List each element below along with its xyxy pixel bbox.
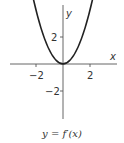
y-axis-label: y xyxy=(65,8,73,19)
graph: x y −2 2 2 −2 xyxy=(0,0,124,143)
graph-caption: y = f′(x) xyxy=(0,128,124,139)
x-tick-label-neg2: −2 xyxy=(29,70,44,81)
y-tick-label-2: 2 xyxy=(51,32,57,43)
x-axis-label: x xyxy=(109,51,116,62)
y-tick-label-neg2: −2 xyxy=(45,86,60,97)
x-tick-label-2: 2 xyxy=(87,70,93,81)
